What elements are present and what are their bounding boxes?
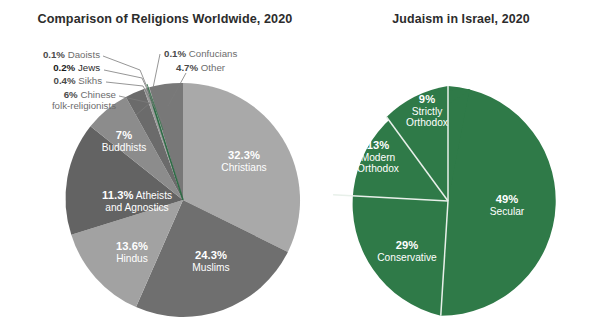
worldwide-religions-chart-panel: Comparison of Religions Worldwide, 2020 xyxy=(0,0,330,332)
callout-name-daoists: Daoists xyxy=(68,49,100,60)
callout-other: 4.7% Other xyxy=(176,62,296,73)
callout-daoists: 0.1% Daoists xyxy=(0,49,100,60)
callout-chinese-folk-religionists: 6% Chinese folk-religionists xyxy=(0,89,116,112)
callout-name-jews: Jews xyxy=(78,62,100,73)
callout-name-chinese: Chinese xyxy=(80,89,116,100)
judaism-israel-pie xyxy=(330,0,592,332)
callout-pct-jews: 0.2% xyxy=(53,62,75,73)
callout-name-confucians: Confucians xyxy=(189,48,237,59)
callout-sikhs: 0.4% Sikhs xyxy=(0,75,102,86)
callout-pct-confucians: 0.1% xyxy=(164,48,186,59)
callout-jews: 0.2% Jews xyxy=(0,62,100,73)
callout-name-other: Other xyxy=(201,62,225,73)
callout-name-chinese-2: folk-religionists xyxy=(52,100,116,111)
callout-name-sikhs: Sikhs xyxy=(78,75,102,86)
judaism-israel-chart-panel: Judaism in Israel, 2020 49% Secular 29% … xyxy=(330,0,592,332)
callout-pct-other: 4.7% xyxy=(176,62,198,73)
callout-pct-daoists: 0.1% xyxy=(43,49,65,60)
callout-confucians: 0.1% Confucians xyxy=(164,48,294,59)
callout-pct-sikhs: 0.4% xyxy=(54,75,76,86)
callout-pct-chinese: 6% xyxy=(64,89,78,100)
